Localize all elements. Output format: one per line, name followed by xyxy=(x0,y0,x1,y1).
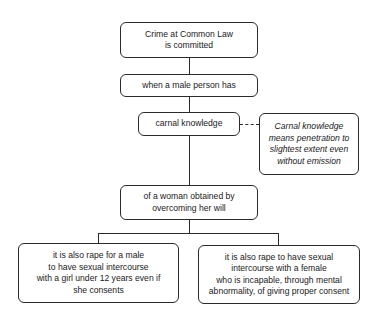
node-crime-at-common-law: Crime at Common Law is committed xyxy=(120,22,258,58)
connector-crime-male xyxy=(189,58,190,74)
dashed-connector-carnal-note xyxy=(240,124,259,125)
connector-carnal-woman xyxy=(189,136,190,185)
connector-male-carnal xyxy=(189,97,190,112)
node-girl-under-12: it is also rape for a male to have sexua… xyxy=(18,243,179,303)
connector-woman-branch xyxy=(189,220,190,233)
node-male-person: when a male person has xyxy=(120,74,258,97)
node-carnal-knowledge: carnal knowledge xyxy=(138,112,240,136)
connector-branch-girl xyxy=(98,233,99,243)
node-carnal-knowledge-definition-note: Carnal knowledge means penetration to sl… xyxy=(259,113,359,175)
node-female-mental-abnormality: it is also rape to have sexual intercour… xyxy=(198,245,360,304)
connector-branch-female xyxy=(278,233,279,245)
branch-line xyxy=(98,233,279,234)
node-woman-overcoming-will: of a woman obtained by overcoming her wi… xyxy=(120,185,258,220)
